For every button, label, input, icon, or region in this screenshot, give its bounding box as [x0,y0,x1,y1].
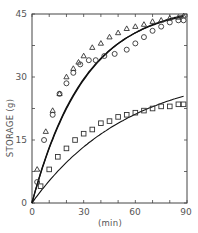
square-marker [181,102,186,107]
y-axis-title: STORAGE (g) [5,99,15,158]
triangle-marker [35,167,40,172]
circle-marker [181,18,186,23]
circle-marker [159,24,164,29]
square-marker [124,113,129,118]
circle-marker [176,18,181,23]
y-tick-label-45: 45 [16,9,27,19]
data-markers [35,13,187,188]
circle-marker [42,138,47,143]
circle-marker [141,35,146,40]
triangle-marker [43,129,48,134]
square-marker [159,104,164,109]
square-marker [81,131,86,136]
triangle-marker [150,19,155,24]
square-marker [47,167,52,172]
square-marker [99,121,104,126]
x-tick-label-90: 90 [180,207,192,217]
fit-curves [32,15,184,203]
triangle-marker [50,108,55,113]
y-tick-label-30: 30 [16,72,28,82]
circle-marker [167,20,172,25]
triangle-marker [124,26,129,31]
square-marker [64,146,69,151]
x-axis-title: (min) [98,218,122,228]
triangle-marker [81,53,86,58]
circle-marker [86,58,91,63]
square-marker [107,119,112,124]
square-marker [167,104,172,109]
circle-marker [112,51,117,56]
square-marker [38,184,43,189]
square-marker [56,155,61,160]
triangle-marker [107,34,112,39]
circle-marker [150,28,155,33]
x-tick-label-30: 30 [78,207,90,217]
triangle-marker [133,24,138,29]
square-marker [90,127,95,132]
square-marker [176,102,181,107]
circle-marker [64,81,69,86]
triangle-marker [71,66,76,71]
circle-marker [71,70,76,75]
y-tick-label-15: 15 [16,135,27,145]
y-tick-label-0: 0 [21,198,27,208]
triangle-marker [116,30,121,35]
chart-canvas: 45 30 15 0 0 30 60 90 (min) STORAGE (g) [0,0,198,233]
circle-marker [50,112,55,117]
circle-marker [133,41,138,46]
square-marker [73,138,78,143]
circle-marker [93,58,98,63]
triangle-marker [141,22,146,27]
x-tick-label-60: 60 [129,207,141,217]
x-tick-label-0: 0 [29,207,35,217]
triangle-marker [64,74,69,79]
triangle-marker [98,41,103,46]
triangle-marker [90,45,95,50]
circle-marker [124,47,129,52]
square-marker [116,115,121,120]
